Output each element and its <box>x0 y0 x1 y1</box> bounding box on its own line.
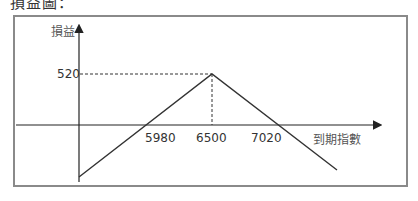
payoff-chart: 損益 520 5980 6500 7020 到期指數 <box>0 0 418 201</box>
x-axis-label: 到期指數 <box>313 132 361 147</box>
y-tick-520: 520 <box>57 67 80 81</box>
y-axis-label: 損益 <box>51 24 75 39</box>
x-tick-6500: 6500 <box>196 131 227 145</box>
x-tick-7020: 7020 <box>251 131 282 145</box>
x-tick-5980: 5980 <box>145 131 176 145</box>
